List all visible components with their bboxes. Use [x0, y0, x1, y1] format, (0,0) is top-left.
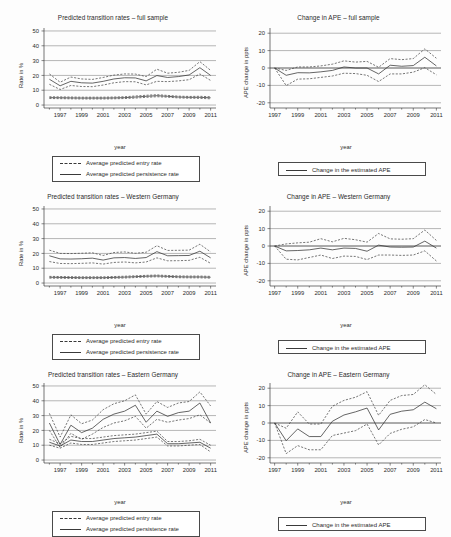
solid-line-key-icon [286, 345, 307, 351]
x-tick-label: 2001 [314, 112, 327, 118]
plot-area: -20-100102019971999200120032005200720092… [226, 202, 451, 302]
y-tick-label: 0 [36, 457, 39, 463]
solid-line-key-icon [60, 526, 81, 532]
y-tick-label: 10 [259, 226, 265, 232]
solid-line-key-icon [60, 349, 81, 355]
series-line [275, 385, 437, 428]
y-tick-label: 30 [33, 413, 39, 419]
series-line [49, 251, 210, 260]
y-tick-label: -20 [257, 455, 265, 461]
y-axis-label: Rate in % [18, 241, 24, 266]
y-tick-label: 0 [262, 65, 265, 71]
y-tick-label: 10 [259, 403, 265, 409]
series-line [49, 62, 210, 83]
legend-label: Average predicted persistence rate [86, 526, 179, 532]
y-tick-label: -20 [257, 100, 265, 106]
y-tick-label: 30 [33, 58, 39, 64]
legend-item-ape-change: Change in the estimated APE [279, 518, 425, 531]
x-tick-label: 2011 [430, 112, 442, 118]
solid-line-key-icon [60, 171, 81, 177]
x-tick-label: 2005 [140, 467, 153, 473]
series-line [275, 49, 437, 71]
x-tick-label: 2001 [314, 467, 327, 473]
chart-title: Predicted transition rates – Western Ger… [0, 193, 226, 200]
chart-canvas: 0102030405019971999200120032005200720092… [0, 379, 226, 479]
y-tick-label: 20 [259, 30, 265, 36]
y-tick-label: 0 [262, 420, 265, 426]
chart-title: Predicted transition rates – Eastern Ger… [0, 371, 226, 378]
y-tick-label: 50 [33, 206, 39, 212]
x-axis-label: year [30, 499, 210, 505]
legend-label: Average predicted entry rate [86, 338, 162, 344]
series-line [275, 68, 437, 86]
y-tick-label: -10 [257, 437, 265, 443]
panel-rates-western-germany: Predicted transition rates – Western Ger… [0, 179, 226, 357]
series-line [49, 68, 210, 86]
plot-area: 0102030405019971999200120032005200720092… [0, 24, 226, 124]
chart-title: Change in APE – Western Germany [226, 193, 451, 200]
solid-line-key-icon [286, 167, 307, 173]
chart-title: Change in APE – Eastern Germany [226, 371, 451, 378]
y-tick-label: 50 [33, 383, 39, 389]
x-tick-label: 2003 [337, 290, 350, 296]
legend-ape: Change in the estimated APE [278, 162, 426, 176]
x-tick-label: 2001 [97, 112, 110, 118]
x-tick-label: 2003 [118, 467, 131, 473]
y-tick-label: 20 [259, 208, 265, 214]
x-tick-label: 1999 [291, 290, 304, 296]
x-tick-label: 2009 [407, 290, 420, 296]
dashed-line-key-icon [60, 338, 81, 344]
series-line [49, 403, 210, 444]
series-line [49, 244, 210, 255]
y-axis-label: Rate in % [18, 63, 24, 88]
legend-item-ape-change: Change in the estimated APE [279, 341, 425, 354]
legend-ape: Change in the estimated APE [278, 517, 426, 531]
x-tick-label: 2011 [430, 290, 442, 296]
plot-area: -20-100102019971999200120032005200720092… [226, 379, 451, 479]
dashed-line-key-icon [60, 160, 81, 166]
panel-rates-full-sample: Predicted transition rates – full sample… [0, 0, 226, 179]
x-tick-label: 2009 [407, 112, 420, 118]
y-tick-label: 10 [259, 48, 265, 54]
x-tick-label: 2009 [183, 467, 196, 473]
x-tick-label: 2003 [118, 112, 131, 118]
y-tick-label: 20 [33, 73, 39, 79]
legend-label: Average predicted persistence rate [86, 171, 179, 177]
x-tick-label: 2003 [118, 290, 131, 296]
solid-line-key-icon [286, 522, 307, 528]
x-tick-label: 2001 [314, 290, 327, 296]
y-tick-label: 20 [259, 385, 265, 391]
x-axis-label: year [30, 144, 210, 150]
chart-canvas: -20-100102019971999200120032005200720092… [226, 24, 451, 124]
x-tick-label: 1997 [54, 112, 67, 118]
legend-label: Average predicted persistence rate [86, 349, 179, 355]
legend-label: Change in the estimated APE [312, 167, 390, 173]
y-tick-label: -10 [257, 82, 265, 88]
chart-canvas: 0102030405019971999200120032005200720092… [0, 24, 226, 124]
legend-label: Change in the estimated APE [312, 345, 390, 351]
legend-label: Average predicted entry rate [86, 160, 162, 166]
x-tick-label: 1999 [75, 112, 88, 118]
legend-item-entry-rate: Average predicted entry rate [53, 335, 199, 346]
plot-area: 0102030405019971999200120032005200720092… [0, 202, 226, 302]
x-tick-label: 2007 [161, 290, 174, 296]
legend-item-ape-change: Change in the estimated APE [279, 163, 425, 176]
x-tick-label: 2005 [361, 290, 374, 296]
y-tick-label: 50 [33, 28, 39, 34]
chart-canvas: -20-100102019971999200120032005200720092… [226, 379, 451, 479]
y-axis-label: APE change in ppts [243, 225, 249, 276]
x-tick-label: 2011 [204, 112, 216, 118]
x-tick-label: 2001 [97, 290, 110, 296]
x-tick-label: 1997 [54, 467, 67, 473]
legend-label: Average predicted entry rate [86, 515, 162, 521]
dashed-line-key-icon [60, 515, 81, 521]
figure-panel-grid: Predicted transition rates – full sample… [0, 0, 451, 537]
x-tick-label: 2007 [384, 290, 397, 296]
x-tick-label: 2003 [337, 467, 350, 473]
x-tick-label: 1999 [291, 467, 304, 473]
x-tick-label: 1997 [54, 290, 67, 296]
x-axis-label: year [30, 322, 210, 328]
chart-title: Predicted transition rates – full sample [0, 14, 226, 21]
x-tick-label: 2005 [140, 112, 153, 118]
legend-item-persistence-rate: Average predicted persistence rate [53, 346, 199, 357]
